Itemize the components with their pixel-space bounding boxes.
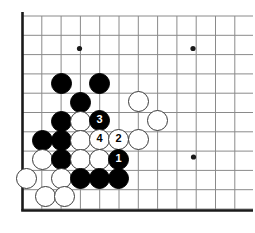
stone-white[interactable] [70, 149, 91, 170]
move-stone-4[interactable]: 4 [89, 129, 110, 150]
move-stone-3[interactable]: 3 [89, 110, 110, 131]
move-stone-1[interactable]: 1 [108, 149, 129, 170]
move-stone-2[interactable]: 2 [108, 129, 129, 150]
stone-black[interactable] [89, 73, 110, 94]
move-number-label: 3 [96, 114, 102, 125]
stone-black[interactable] [51, 73, 72, 94]
stone-white[interactable] [70, 130, 91, 151]
stone-white[interactable] [147, 110, 168, 131]
stone-black[interactable] [70, 168, 91, 189]
stone-white[interactable] [128, 129, 149, 150]
stone-black[interactable] [51, 111, 72, 132]
stone-white[interactable] [54, 186, 75, 207]
go-board-diagram: 3421 [0, 0, 255, 233]
stone-black[interactable] [51, 149, 72, 170]
move-number-label: 1 [115, 153, 121, 164]
stone-white[interactable] [32, 149, 53, 170]
stone-white[interactable] [128, 91, 149, 112]
stone-black[interactable] [32, 130, 53, 151]
stone-white[interactable] [35, 186, 56, 207]
stone-white[interactable] [89, 149, 110, 170]
stone-black[interactable] [70, 92, 91, 113]
star-point-1-icon [77, 46, 82, 51]
stone-black[interactable] [51, 130, 72, 151]
stone-black[interactable] [108, 168, 129, 189]
move-number-label: 2 [115, 133, 121, 144]
stone-white[interactable] [70, 111, 91, 132]
star-point-3-icon [191, 154, 196, 159]
star-point-2-icon [190, 46, 195, 51]
stone-black[interactable] [89, 168, 110, 189]
stone-white[interactable] [16, 168, 37, 189]
move-number-label: 4 [96, 133, 102, 144]
